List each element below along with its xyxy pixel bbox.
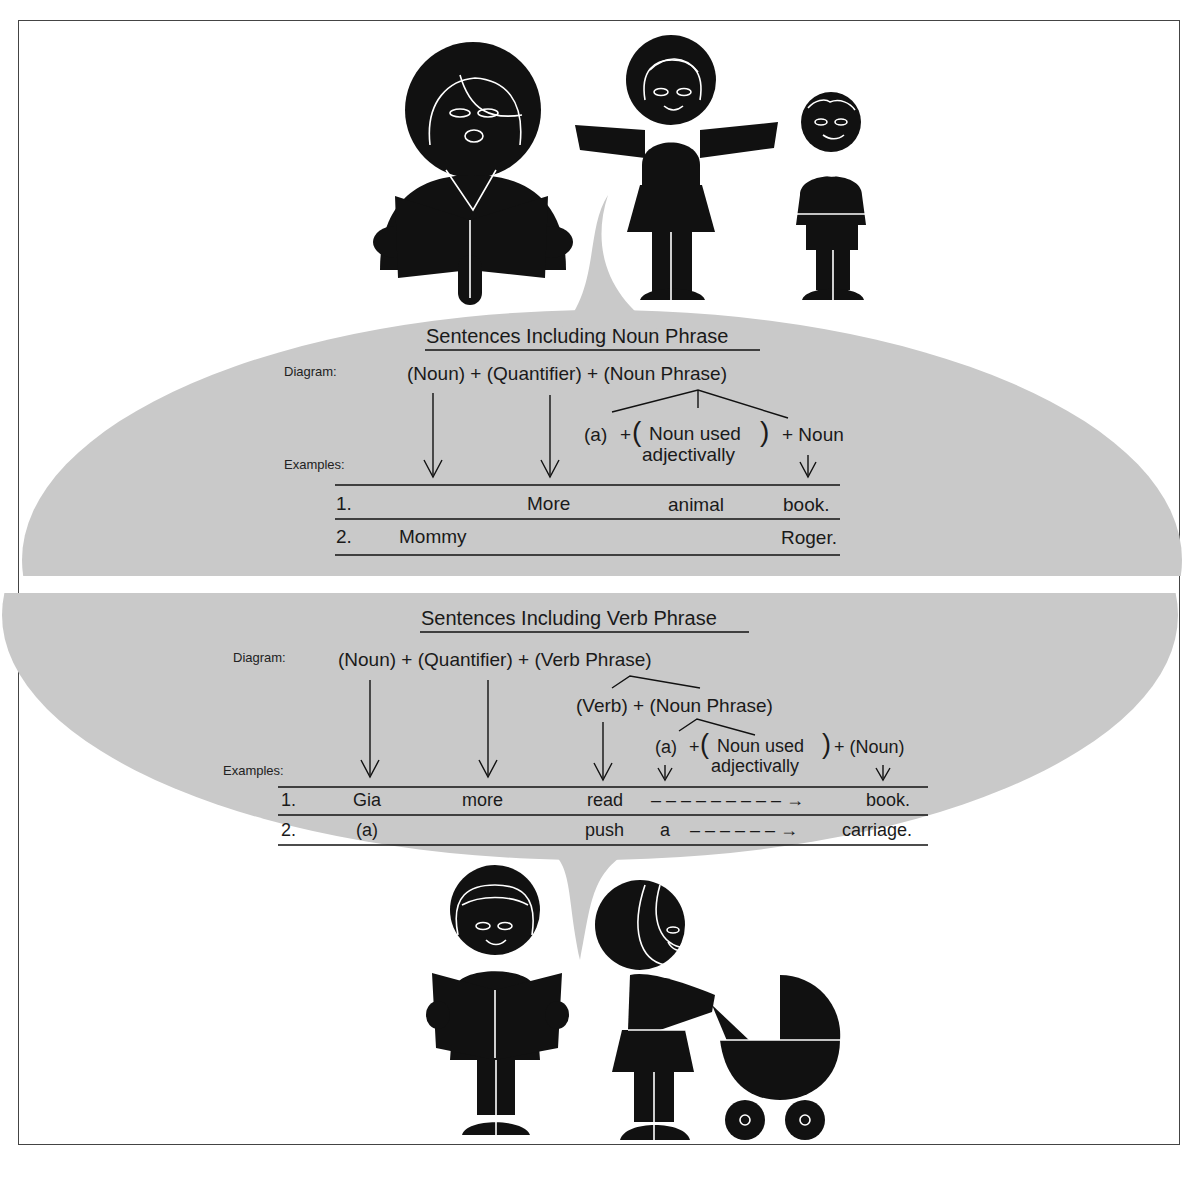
noun-formula: (Noun) + (Quantifier) + (Noun Phrase) — [407, 364, 727, 383]
np-plus: + — [620, 425, 631, 444]
noun-row-2-noun: Mommy — [399, 527, 467, 546]
formula-quantifier: (Quantifier) — [487, 363, 582, 384]
noun-row-1-head: book. — [783, 495, 829, 514]
paren-open: ( — [700, 731, 709, 758]
formula-plus: + — [518, 649, 529, 670]
noun-diagram-label: Diagram: — [284, 365, 337, 378]
verb-row-1-noun: Gia — [353, 791, 381, 809]
verb-row-2-article: a — [660, 821, 670, 839]
verb-row-2-head: carriage. — [842, 821, 912, 839]
verb-expansion: (Verb) + (Noun Phrase) — [576, 696, 773, 715]
formula-plus: + — [401, 649, 412, 670]
verb-row-1-quantifier: more — [462, 791, 503, 809]
verb-examples-label: Examples: — [223, 764, 284, 777]
vp-head: + (Noun) — [834, 738, 905, 756]
paren-open: ( — [632, 418, 641, 446]
illustration-layer — [0, 0, 1187, 1184]
noun-examples-label: Examples: — [284, 458, 345, 471]
verb-row-1-dashes: – – – – – – – – – → — [651, 791, 804, 809]
girl-with-pram-icon — [595, 880, 840, 1140]
formula-quantifier: (Quantifier) — [418, 649, 513, 670]
formula-verb-phrase: (Verb Phrase) — [534, 649, 651, 670]
formula-plus: + — [587, 363, 598, 384]
verb-row-1-verb: read — [587, 791, 623, 809]
formula-noun: (Noun) — [338, 649, 396, 670]
paren-close: ) — [822, 731, 831, 758]
noun-row-2-head: Roger. — [781, 528, 837, 547]
vp-adj-line2: adjectivally — [711, 757, 799, 775]
paren-close: ) — [760, 418, 769, 446]
noun-row-2-num: 2. — [336, 527, 352, 546]
woman-reading-icon — [373, 42, 573, 305]
verb-row-1-num: 1. — [281, 791, 296, 809]
noun-row-1-quantifier: More — [527, 494, 570, 513]
noun-row-1-num: 1. — [336, 494, 352, 513]
verb-row-2-verb: push — [585, 821, 624, 839]
verb-row-2-dashes: – – – – – – → — [690, 821, 798, 839]
formula-noun-phrase: (Noun Phrase) — [603, 363, 727, 384]
boy-standing-icon — [796, 92, 866, 300]
vp-adj-line1: Noun used — [717, 737, 804, 755]
verb-diagram-label: Diagram: — [233, 651, 286, 664]
verb-row-2-num: 2. — [281, 821, 296, 839]
formula-noun: (Noun) — [407, 363, 465, 384]
np-article: (a) — [584, 425, 607, 444]
formula-plus: + — [470, 363, 481, 384]
girl-arms-out-icon — [575, 35, 778, 300]
noun-panel-title: Sentences Including Noun Phrase — [426, 326, 728, 346]
noun-row-1-adjective: animal — [668, 495, 724, 514]
verb-panel-title: Sentences Including Verb Phrase — [421, 608, 717, 628]
vp-article: (a) — [655, 738, 677, 756]
adj-line2: adjectivally — [642, 445, 735, 464]
verb-formula: (Noun) + (Quantifier) + (Verb Phrase) — [338, 650, 652, 669]
vp-plus: + — [689, 738, 700, 756]
verb-row-2-noun: (a) — [356, 821, 378, 839]
girl-reading-icon — [426, 865, 569, 1135]
verb-row-1-head: book. — [866, 791, 910, 809]
adj-line1: Noun used — [649, 424, 741, 443]
np-head: + Noun — [782, 425, 844, 444]
